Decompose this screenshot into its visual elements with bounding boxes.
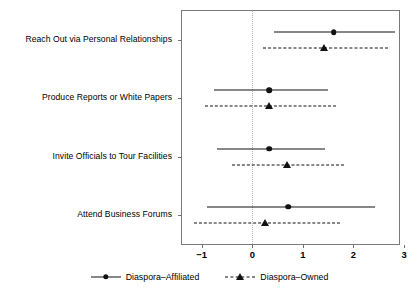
zero-reference-line xyxy=(252,11,253,244)
category-axis-labels: Reach Out via Personal RelationshipsProd… xyxy=(0,0,178,294)
coefficient-plot-figure: Reach Out via Personal RelationshipsProd… xyxy=(0,0,419,294)
y-axis-tick xyxy=(178,40,182,41)
plot-panel xyxy=(181,10,400,245)
chart-legend: Diaspora–AffiliatedDiaspora–Owned xyxy=(0,268,419,286)
legend-item[interactable]: Diaspora–Affiliated xyxy=(91,272,200,282)
x-axis-tick-label: 3 xyxy=(401,249,406,260)
plot-area xyxy=(182,11,399,244)
point-estimate-marker xyxy=(285,204,291,210)
point-estimate-marker xyxy=(283,161,291,168)
category-label: Attend Business Forums xyxy=(77,209,172,219)
x-axis-tick xyxy=(353,245,354,248)
x-axis-tick-label: 2 xyxy=(351,249,356,260)
legend-key-marker xyxy=(103,274,108,279)
legend-key-marker xyxy=(236,273,244,280)
triangle-marker-icon xyxy=(225,272,255,282)
legend-label: Diaspora–Affiliated xyxy=(126,272,200,282)
category-label: Produce Reports or White Papers xyxy=(42,92,172,102)
x-axis-tick-label: 0 xyxy=(250,249,255,260)
point-estimate-marker xyxy=(266,146,272,152)
point-estimate-marker xyxy=(266,88,272,94)
y-axis-tick xyxy=(178,157,182,158)
x-axis-tick-label: −1 xyxy=(196,249,207,260)
x-axis-tick-label: 1 xyxy=(300,249,305,260)
x-axis: −10123 xyxy=(181,245,400,267)
category-label: Reach Out via Personal Relationships xyxy=(25,34,172,44)
x-axis-tick xyxy=(252,245,253,248)
y-axis-tick xyxy=(178,98,182,99)
point-estimate-marker xyxy=(331,29,337,35)
point-estimate-marker xyxy=(261,219,269,226)
point-estimate-marker xyxy=(265,102,273,109)
x-axis-tick xyxy=(202,245,203,248)
x-axis-tick xyxy=(404,245,405,248)
x-axis-tick xyxy=(303,245,304,248)
y-axis-tick xyxy=(178,215,182,216)
legend-label: Diaspora–Owned xyxy=(260,272,328,282)
circle-marker-icon xyxy=(91,272,121,282)
point-estimate-marker xyxy=(320,44,328,51)
legend-item[interactable]: Diaspora–Owned xyxy=(225,272,328,282)
category-label: Invite Officials to Tour Facilities xyxy=(53,151,172,161)
